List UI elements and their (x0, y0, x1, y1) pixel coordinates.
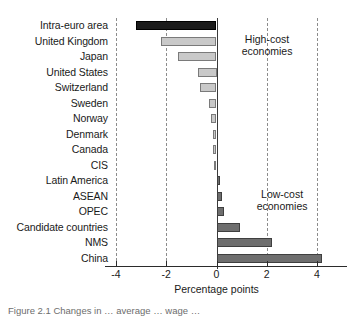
category-label: United Kingdom (35, 34, 108, 50)
bar (214, 161, 217, 170)
annotation-line-1: High-cost (245, 33, 289, 45)
bar (213, 130, 217, 139)
plot-annotation: Low-costeconomies (257, 188, 308, 212)
x-axis-title: Percentage points (116, 283, 317, 295)
category-label: Latin America (46, 173, 108, 189)
x-tick-label-zero: 0 (204, 268, 230, 280)
x-tick-minus4 (116, 261, 117, 266)
bar (209, 99, 217, 108)
gridline-minus4 (116, 18, 117, 266)
bar (217, 192, 222, 201)
bar-chart-figure: Intra-euro areaUnited KingdomJapanUnited… (0, 0, 358, 318)
annotation-line-1: Low-cost (261, 188, 303, 200)
category-label: Candidate countries (17, 220, 109, 236)
category-label: Switzerland (55, 80, 108, 96)
category-label: Japan (80, 49, 108, 65)
category-label: Intra-euro area (40, 18, 108, 34)
x-tick-plus2 (267, 261, 268, 266)
x-tick-zero (217, 261, 218, 266)
bar (200, 83, 216, 92)
category-label: OPEC (79, 204, 108, 220)
x-tick-label-plus2: 2 (254, 268, 280, 280)
bar (198, 68, 217, 77)
bar (178, 52, 217, 61)
category-axis-labels: Intra-euro areaUnited KingdomJapanUnited… (0, 18, 112, 266)
x-axis-line (105, 266, 347, 267)
category-label: China (81, 251, 108, 267)
category-label: ASEAN (73, 189, 108, 205)
x-tick-plus4 (317, 261, 318, 266)
category-label: United States (46, 65, 108, 81)
bar (217, 223, 241, 232)
gridline-plus4 (317, 18, 318, 266)
annotation-line-2: economies (242, 45, 293, 57)
bar (136, 21, 216, 30)
category-label: Denmark (66, 127, 108, 143)
category-label: Sweden (71, 96, 108, 112)
category-label: CIS (91, 158, 108, 174)
bar (217, 207, 225, 216)
x-tick-label-minus2: -2 (153, 268, 179, 280)
bar (213, 145, 216, 154)
figure-caption: Figure 2.1 Changes in … average … wage … (8, 305, 356, 317)
bar (217, 238, 272, 247)
plot-annotation: High-costeconomies (242, 33, 293, 57)
annotation-line-2: economies (257, 200, 308, 212)
bar (211, 114, 216, 123)
x-tick-label-minus4: -4 (103, 268, 129, 280)
bar (217, 176, 221, 185)
category-label: Canada (72, 142, 108, 158)
x-tick-minus2 (166, 261, 167, 266)
bar (161, 37, 216, 46)
x-tick-label-plus4: 4 (304, 268, 330, 280)
bar (217, 254, 323, 263)
category-label: Norway (73, 111, 108, 127)
category-label: NMS (85, 235, 108, 251)
plot-area: High-costeconomiesLow-costeconomies (116, 18, 317, 266)
gridline-minus2 (166, 18, 167, 266)
